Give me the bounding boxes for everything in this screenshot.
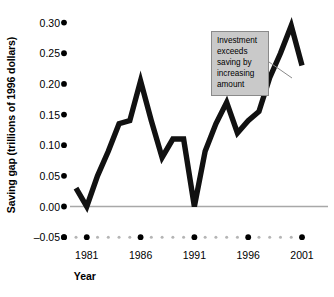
- x-tick-dot-minor: [150, 236, 153, 239]
- x-tick-dots: [61, 234, 305, 240]
- chart-figure: Saving gap (trillions of 1996 dollars) 0…: [0, 0, 334, 297]
- x-tick-dot-minor: [75, 236, 78, 239]
- x-tick-dot-major: [138, 234, 144, 240]
- x-tick-dot-minor: [214, 236, 217, 239]
- annotation-callout: Investment exceeds saving by increasing …: [211, 31, 269, 96]
- y-tick-dot: [61, 204, 67, 210]
- x-tick-dot-minor: [225, 236, 228, 239]
- x-tick-label: 1991: [183, 249, 206, 261]
- annotation-line-2: exceeds: [217, 47, 264, 58]
- x-tick-label: 1986: [129, 249, 152, 261]
- x-tick-dot-minor: [182, 236, 185, 239]
- y-tick-dot: [61, 20, 67, 26]
- x-axis-origin-dot: [61, 234, 67, 240]
- y-tick-dot: [61, 50, 67, 56]
- y-tick-dots: [61, 20, 67, 240]
- x-tick-dot-major: [84, 234, 90, 240]
- y-tick-dot: [61, 173, 67, 179]
- x-tick-label: 2001: [290, 249, 313, 261]
- x-axis-title: Year: [74, 270, 96, 282]
- y-tick-dot: [61, 81, 67, 87]
- x-tick-label: 1981: [75, 249, 98, 261]
- x-tick-dot-minor: [257, 236, 260, 239]
- annotation-line-1: Investment: [217, 36, 264, 47]
- x-tick-dot-minor: [96, 236, 99, 239]
- x-tick-label: 1996: [237, 249, 260, 261]
- x-tick-dot-minor: [268, 236, 271, 239]
- x-tick-dot-minor: [204, 236, 207, 239]
- x-tick-dot-minor: [107, 236, 110, 239]
- annotation-line-5: amount: [217, 80, 264, 91]
- plot-area: [0, 0, 334, 297]
- x-tick-dot-minor: [128, 236, 131, 239]
- x-tick-dot-major: [191, 234, 197, 240]
- x-tick-dot-minor: [161, 236, 164, 239]
- y-tick-dot: [61, 112, 67, 118]
- x-tick-dot-minor: [236, 236, 239, 239]
- x-tick-dot-minor: [279, 236, 282, 239]
- x-tick-dot-minor: [171, 236, 174, 239]
- x-tick-dot-minor: [118, 236, 121, 239]
- x-tick-dot-minor: [290, 236, 293, 239]
- x-tick-dot-major: [299, 234, 305, 240]
- y-tick-dot: [61, 142, 67, 148]
- annotation-line-3: saving by: [217, 58, 264, 69]
- x-tick-dot-major: [245, 234, 251, 240]
- annotation-line-4: increasing: [217, 69, 264, 80]
